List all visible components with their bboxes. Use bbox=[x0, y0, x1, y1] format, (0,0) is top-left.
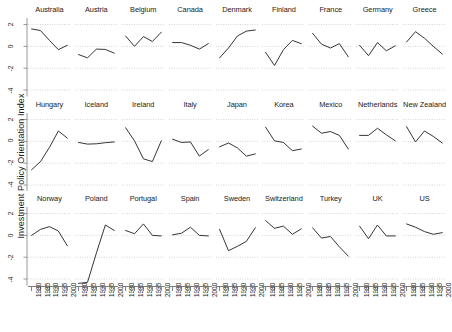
panel-plot-area bbox=[356, 113, 399, 192]
panel-plot-area bbox=[262, 113, 305, 192]
panel-korea: Korea bbox=[262, 97, 305, 192]
panel-plot-area bbox=[216, 18, 259, 97]
x-tick-label: 1995 bbox=[155, 271, 162, 297]
x-tick-label: 1990 bbox=[193, 271, 200, 297]
panel-denmark: Denmark bbox=[216, 2, 259, 97]
panel-strip-label: Iceland bbox=[75, 97, 118, 113]
x-axis-band: 1980198519901995200019801985199019952000… bbox=[28, 286, 450, 332]
y-tick-label: -4 bbox=[7, 273, 14, 285]
panel-plot-area bbox=[75, 113, 118, 192]
panel-strip-label: Belgium bbox=[122, 2, 165, 18]
panel-plot-area bbox=[262, 18, 305, 97]
panel-netherlands: Netherlands bbox=[356, 97, 399, 192]
x-tick-label: 1980 bbox=[175, 271, 182, 297]
panel-strip-label: Greece bbox=[403, 2, 446, 18]
panel-plot-area bbox=[356, 18, 399, 97]
x-tick-label: 1995 bbox=[249, 271, 256, 297]
x-axis-cell: 19801985199019952000 bbox=[75, 286, 118, 332]
x-tick-label: 1990 bbox=[99, 271, 106, 297]
panel-ireland: Ireland bbox=[122, 97, 165, 192]
panel-france: France bbox=[309, 2, 352, 97]
x-tick-label: 1985 bbox=[325, 271, 332, 297]
x-tick-label: 1995 bbox=[202, 271, 209, 297]
x-tick-label: 1985 bbox=[278, 271, 285, 297]
panel-strip-label: US bbox=[403, 191, 446, 207]
panel-row: 20-2-4AustraliaAustriaBelgiumCanadaDenma… bbox=[28, 2, 450, 97]
panel-strip-label: Finland bbox=[262, 2, 305, 18]
panel-italy: Italy bbox=[169, 97, 212, 192]
y-tick-label: 0 bbox=[7, 40, 14, 52]
x-tick-label: 1985 bbox=[44, 271, 51, 297]
panel-mexico: Mexico bbox=[309, 97, 352, 192]
panel-strip-label: Korea bbox=[262, 97, 305, 113]
panel-row: 20-2-4HungaryIcelandIrelandItalyJapanKor… bbox=[28, 97, 450, 192]
panel-strip-label: Switzerland bbox=[262, 191, 305, 207]
x-axis-cell: 19801985199019952000 bbox=[169, 286, 212, 332]
panel-iceland: Iceland bbox=[75, 97, 118, 192]
x-tick-label: 1990 bbox=[240, 271, 247, 297]
x-tick-label: 1995 bbox=[390, 271, 397, 297]
panel-plot-area bbox=[169, 18, 212, 97]
y-tick-label: -2 bbox=[7, 62, 14, 74]
panel-australia: Australia bbox=[28, 2, 71, 97]
x-tick-label: 1990 bbox=[381, 271, 388, 297]
y-tick-label: 0 bbox=[7, 230, 14, 242]
panel-plot-area bbox=[169, 113, 212, 192]
x-tick-label: 1990 bbox=[334, 271, 341, 297]
panel-strip-label: Canada bbox=[169, 2, 212, 18]
x-axis-cell: 19801985199019952000 bbox=[403, 286, 446, 332]
x-tick-label: 1980 bbox=[410, 271, 417, 297]
panel-austria: Austria bbox=[75, 2, 118, 97]
x-tick-label: 1980 bbox=[128, 271, 135, 297]
panel-strip-label: Mexico bbox=[309, 97, 352, 113]
panel-strip-label: Netherlands bbox=[356, 97, 399, 113]
panel-plot-area bbox=[28, 18, 71, 97]
trellis-chart: Investment Policy Orientation Index 20-2… bbox=[0, 0, 452, 332]
y-tick-label: -2 bbox=[7, 157, 14, 169]
x-tick-label: 1985 bbox=[137, 271, 144, 297]
panel-strip-label: Austria bbox=[75, 2, 118, 18]
y-tick-label: -4 bbox=[7, 84, 14, 96]
panel-canada: Canada bbox=[169, 2, 212, 97]
panel-plot-area bbox=[309, 113, 352, 192]
panel-plot-area bbox=[403, 18, 446, 97]
panel-greece: Greece bbox=[403, 2, 446, 97]
panel-finland: Finland bbox=[262, 2, 305, 97]
x-tick-label: 1990 bbox=[146, 271, 153, 297]
panel-strip-label: Poland bbox=[75, 191, 118, 207]
x-tick-label: 1980 bbox=[316, 271, 323, 297]
x-tick-label: 1995 bbox=[343, 271, 350, 297]
x-axis-cell: 19801985199019952000 bbox=[262, 286, 305, 332]
x-tick-label: 1980 bbox=[35, 271, 42, 297]
panel-strip-label: Denmark bbox=[216, 2, 259, 18]
x-tick-label: 1990 bbox=[52, 271, 59, 297]
x-axis-cell: 19801985199019952000 bbox=[122, 286, 165, 332]
x-axis-cell: 19801985199019952000 bbox=[28, 286, 71, 332]
panel-plot-area bbox=[75, 18, 118, 97]
panel-strip-label: New Zealand bbox=[403, 97, 446, 113]
x-tick-label: 1985 bbox=[231, 271, 238, 297]
panel-strip-label: Australia bbox=[28, 2, 71, 18]
panel-strip-label: Ireland bbox=[122, 97, 165, 113]
panel-strip-label: Turkey bbox=[309, 191, 352, 207]
x-tick-label: 1995 bbox=[296, 271, 303, 297]
x-tick-label: 1985 bbox=[90, 271, 97, 297]
x-tick-label: 1980 bbox=[363, 271, 370, 297]
panel-strip-label: Spain bbox=[169, 191, 212, 207]
panel-strip-label: Japan bbox=[216, 97, 259, 113]
x-axis-cell: 19801985199019952000 bbox=[216, 286, 259, 332]
panel-plot-area bbox=[28, 113, 71, 192]
x-tick-label: 1995 bbox=[436, 271, 443, 297]
x-axis-cell: 19801985199019952000 bbox=[309, 286, 352, 332]
panel-plot-area bbox=[122, 18, 165, 97]
y-axis bbox=[18, 18, 28, 97]
x-tick-label: 1995 bbox=[61, 271, 68, 297]
y-tick-label: 0 bbox=[7, 135, 14, 147]
panel-grid: 20-2-4AustraliaAustriaBelgiumCanadaDenma… bbox=[28, 2, 450, 286]
panel-belgium: Belgium bbox=[122, 2, 165, 97]
panel-strip-label: Hungary bbox=[28, 97, 71, 113]
panel-plot-area bbox=[122, 113, 165, 192]
panel-strip-label: Sweden bbox=[216, 191, 259, 207]
panel-japan: Japan bbox=[216, 97, 259, 192]
panel-plot-area bbox=[216, 113, 259, 192]
